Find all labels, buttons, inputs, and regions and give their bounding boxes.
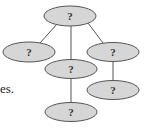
node-left: ? (3, 42, 55, 62)
node-label: ? (68, 63, 74, 75)
node-root: ? (44, 6, 96, 26)
edge-root-left (40, 24, 57, 43)
edge-root-right (88, 23, 103, 43)
node-label: ? (26, 46, 32, 58)
node-label: ? (110, 84, 116, 96)
node-right: ? (87, 43, 139, 62)
node-right-child: ? (87, 81, 139, 100)
node-middle: ? (45, 60, 97, 79)
tree-diagram: ?????? es. (0, 0, 150, 128)
text-fragment: es. (0, 82, 14, 96)
node-label: ? (110, 46, 116, 58)
tree-svg: ?????? (0, 0, 150, 128)
node-bottom: ? (45, 103, 97, 122)
node-label: ? (68, 106, 74, 118)
node-label: ? (67, 10, 73, 22)
